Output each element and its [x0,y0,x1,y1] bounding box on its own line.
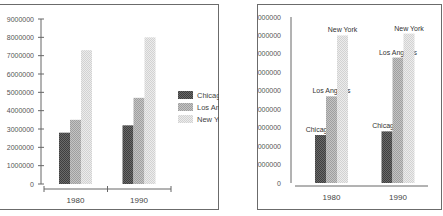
y-tick-label: 2000000 [258,143,281,150]
legend-label: Chicago [197,91,219,100]
legend-swatch-new-york [178,115,193,123]
y-tick-label: 9000000 [258,14,281,21]
chart-panel-right: 0100000020000003000000400000050000006000… [257,4,442,210]
bar-los-angeles-1990 [393,58,404,183]
y-tick-label: 7000000 [7,52,34,59]
y-tick-label: 5000000 [7,89,34,96]
x-tick-label: 1980 [67,196,85,205]
bar-chicago-1990 [123,125,134,184]
legend-swatch-chicago [178,91,193,99]
y-tick-label: 9000000 [7,16,34,23]
y-tick-label: 1000000 [258,161,281,168]
bar-new-york-1980 [81,50,92,184]
y-tick-label: 0 [30,181,34,188]
y-tick-label: 5000000 [258,87,281,94]
x-tick-label: 1990 [130,196,148,205]
y-tick-label: 8000000 [258,32,281,39]
bar-los-angeles-1980 [70,120,81,184]
y-tick-label: 3000000 [258,124,281,131]
y-tick-label: 4000000 [258,106,281,113]
bar-new-york-1990 [404,34,415,183]
y-tick-label: 7000000 [258,50,281,57]
legend-swatch-los-angeles [178,103,193,111]
y-tick-label: 4000000 [7,107,34,114]
data-label: New York [328,26,358,33]
y-tick-label: 3000000 [7,126,34,133]
x-tick-label: 1990 [389,193,407,202]
bar-new-york-1980 [337,35,348,183]
bar-chart-left: 0100000020000003000000400000050000006000… [0,5,219,211]
bar-new-york-1990 [145,37,156,184]
y-tick-label: 1000000 [7,162,34,169]
bar-chicago-1980 [59,133,70,184]
bar-los-angeles-1990 [134,98,145,184]
chart-panel-left: 0100000020000003000000400000050000006000… [0,4,219,210]
y-tick-label: 0 [277,180,281,187]
data-label: New York [394,25,424,32]
legend-label: New York [197,115,219,124]
y-tick-label: 6000000 [258,69,281,76]
y-tick-label: 8000000 [7,34,34,41]
bar-chicago-1980 [315,135,326,183]
bar-los-angeles-1980 [326,96,337,183]
bar-chart-right: 0100000020000003000000400000050000006000… [258,5,443,211]
legend-label: Los Angeles [197,103,219,112]
y-tick-label: 2000000 [7,144,34,151]
x-tick-label: 1980 [323,193,341,202]
bar-chicago-1990 [382,131,393,183]
y-tick-label: 6000000 [7,71,34,78]
